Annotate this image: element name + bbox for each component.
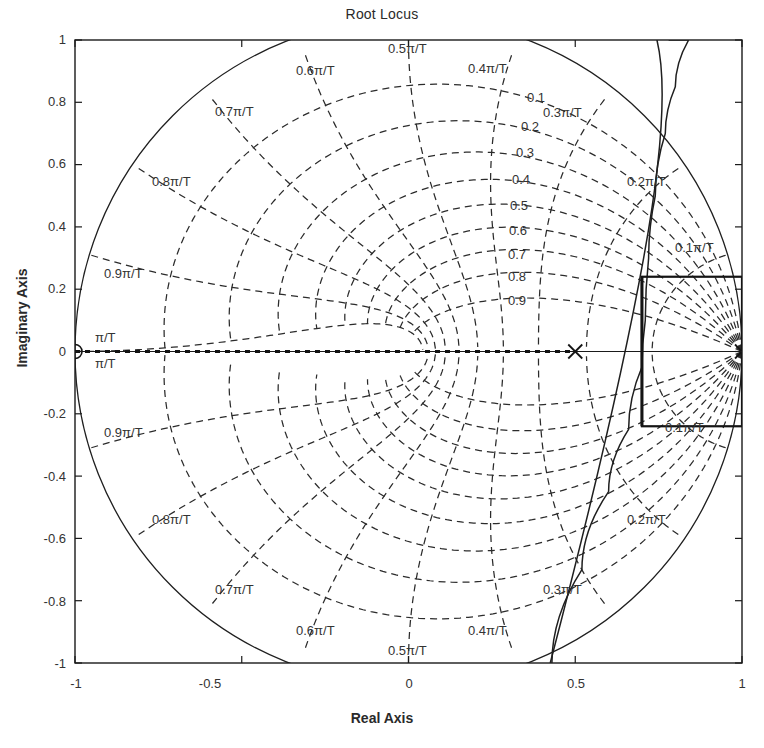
damping-label-0.6: 0.6 <box>509 223 527 238</box>
grid-label-0.1pi-upper: 0.1π/T <box>675 240 714 255</box>
grid-label-0.8pi-upper: 0.8π/T <box>152 174 191 189</box>
damping-label-0.4: 0.4 <box>512 172 530 187</box>
damping-label-0.1: 0.1 <box>527 90 545 105</box>
grid-label-0.9pi-lower: 0.9π/T <box>104 425 143 440</box>
grid-label-0.5pi-lower: 0.5π/T <box>388 643 427 658</box>
grid-label-0.6pi-lower: 0.6π/T <box>296 623 335 638</box>
damping-label-0.2: 0.2 <box>521 119 539 134</box>
damping-label-0.9: 0.9 <box>508 293 526 308</box>
grid-label-0.6pi-upper: 0.6π/T <box>296 63 335 78</box>
grid-label-0.1pi-lower: 0.1π/T <box>665 420 704 435</box>
grid-label-0.4pi-upper: 0.4π/T <box>468 61 507 76</box>
grid-label-0.8pi-lower: 0.8π/T <box>152 512 191 527</box>
root-locus-figure: Root Locus Real Axis Imaginary Axis 1 0.… <box>0 0 764 748</box>
grid-label-0.7pi-lower: 0.7π/T <box>215 582 254 597</box>
grid-label-0.7pi-upper: 0.7π/T <box>215 104 254 119</box>
grid-label-0.3pi-upper: 0.3π/T <box>543 105 582 120</box>
grid-label-0.9pi-upper: 0.9π/T <box>104 266 143 281</box>
grid-label-0.2pi-upper: 0.2π/T <box>627 174 666 189</box>
grid-label-0.3pi-lower: 0.3π/T <box>543 582 582 597</box>
damping-label-0.8: 0.8 <box>508 269 526 284</box>
damping-label-0.5: 0.5 <box>510 198 528 213</box>
grid-label-0.4pi-lower: 0.4π/T <box>468 623 507 638</box>
grid-label-pi-lower: π/T <box>95 356 116 371</box>
grid-label-pi-upper: π/T <box>95 330 116 345</box>
grid-label-0.2pi-lower: 0.2π/T <box>627 512 666 527</box>
damping-label-0.3: 0.3 <box>516 145 534 160</box>
plot-canvas <box>0 0 764 748</box>
damping-label-0.7: 0.7 <box>508 247 526 262</box>
grid-label-0.5pi-upper: 0.5π/T <box>388 41 427 56</box>
